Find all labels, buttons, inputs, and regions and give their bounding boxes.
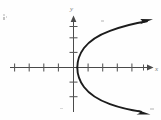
y-axis-arrowhead [71, 16, 77, 23]
graph-canvas: y x [0, 0, 161, 120]
parabola-lower-branch [77, 68, 141, 112]
parabola-figure: y x [0, 0, 161, 120]
x-axis-arrowhead [147, 65, 154, 71]
lower-branch-arrowhead [137, 110, 151, 115]
y-axis [71, 16, 77, 113]
x-axis-label: x [154, 65, 159, 73]
y-axis-label: y [69, 5, 74, 13]
parabola-upper-branch [77, 21, 147, 67]
